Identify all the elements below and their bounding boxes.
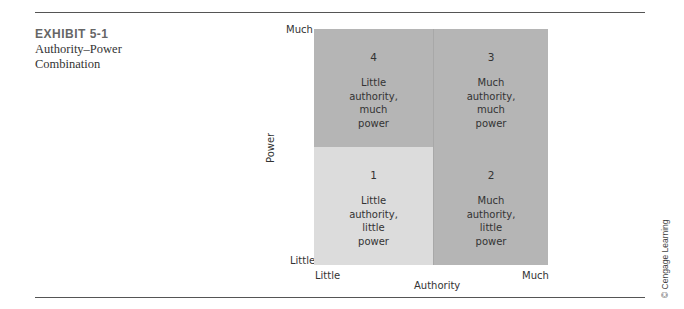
quadrant-text: Little authority, little power [314,194,433,248]
quadrant-line: authority, [314,208,433,222]
exhibit-label: EXHIBIT 5-1 [35,27,109,41]
quadrant-1: 1 Little authority, little power [314,147,433,265]
x-axis-low-label: Little [315,270,340,281]
quadrant-line: little [434,221,548,235]
quadrant-line: little [314,221,433,235]
y-axis-low-label: Little [290,255,315,266]
y-axis-high-label: Much [286,24,313,35]
exhibit-title: Authority–Power Combination [35,42,155,72]
quadrant-line: authority, [434,90,548,104]
quadrant-line: Much [434,194,548,208]
quadrant-line: authority, [314,90,433,104]
quadrant-2: 2 Much authority, little power [433,147,548,265]
quadrant-number: 4 [314,51,433,65]
quadrant-text: Much authority, much power [434,76,548,130]
copyright-credit: © Cengage Learning [660,219,670,298]
quadrant-number: 3 [434,51,548,65]
x-axis-high-label: Much [522,270,549,281]
quadrant-line: much [434,103,548,117]
quadrant-line: Little [314,194,433,208]
exhibit-title-line2: Combination [35,57,155,72]
authority-power-matrix: 4 Little authority, much power 3 Much au… [314,29,548,265]
quadrant-line: much [314,103,433,117]
quadrant-line: power [434,117,548,131]
quadrant-line: Little [314,76,433,90]
quadrant-line: authority, [434,208,548,222]
quadrant-line: power [314,235,433,249]
exhibit-title-line1: Authority–Power [35,42,155,57]
quadrant-line: power [434,235,548,249]
quadrant-text: Little authority, much power [314,76,433,130]
quadrant-number: 1 [314,169,433,183]
top-rule [35,12,645,13]
quadrant-number: 2 [434,169,548,183]
quadrant-4: 4 Little authority, much power [314,29,433,147]
quadrant-3: 3 Much authority, much power [433,29,548,147]
quadrant-line: Much [434,76,548,90]
quadrant-text: Much authority, little power [434,194,548,248]
quadrant-line: power [314,117,433,131]
bottom-rule [35,297,645,298]
y-axis-title: Power [265,133,276,163]
x-axis-title: Authority [414,280,460,291]
